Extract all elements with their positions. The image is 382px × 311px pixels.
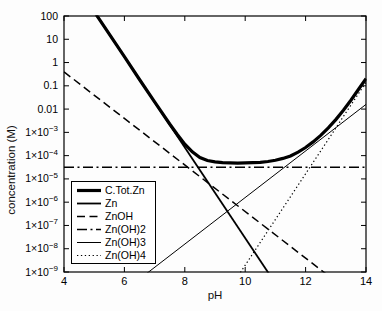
y-tick-label: 1×10−6 (25, 194, 58, 208)
y-tick-label: 0.01 (38, 103, 59, 115)
y-axis-label: concentration (M) (5, 125, 17, 214)
legend-label-znoh: ZnOH (105, 210, 133, 222)
y-tick-label: 100 (40, 10, 58, 22)
y-tick-label: 10 (46, 33, 58, 45)
y-tick-label: 1×10−3 (25, 124, 58, 138)
zinc-solubility-diagram: 4681012141001010.10.011×10−31×10−41×10−5… (0, 0, 382, 311)
legend-label-c-tot-zn: C.Tot.Zn (105, 184, 145, 196)
series-line-zn-oh-4 (236, 82, 366, 279)
x-axis-label: pH (64, 289, 366, 301)
x-tick-label: 8 (182, 275, 188, 287)
legend-label-zn: Zn (105, 197, 117, 209)
x-tick-label: 4 (61, 275, 67, 287)
y-tick-label: 1×10−5 (25, 171, 58, 185)
y-tick-label: 1×10−4 (25, 148, 58, 162)
y-tick-label: 0.1 (43, 79, 58, 91)
legend-label-zn-oh-3: Zn(OH)3 (105, 236, 146, 248)
legend-label-zn-oh-4: Zn(OH)4 (105, 249, 146, 261)
x-tick-label: 10 (239, 275, 251, 287)
y-tick-label: 1×10−9 (25, 264, 58, 278)
legend-label-zn-oh-2: Zn(OH)2 (105, 223, 146, 235)
y-tick-label: 1×10−7 (25, 217, 58, 231)
x-tick-label: 12 (299, 275, 311, 287)
y-tick-label: 1×10−8 (25, 241, 58, 255)
y-tick-label: 1 (52, 56, 58, 68)
x-tick-label: 14 (360, 275, 372, 287)
series-line-c-tot-zn (64, 0, 366, 163)
x-tick-label: 6 (121, 275, 127, 287)
chart-canvas: 4681012141001010.10.011×10−31×10−41×10−5… (0, 0, 382, 311)
